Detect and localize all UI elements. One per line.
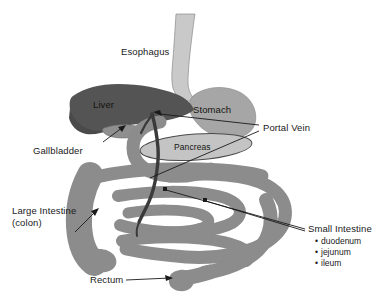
label-pancreas: Pancreas bbox=[174, 142, 211, 154]
label-small-intestine: Small Intestine bbox=[308, 223, 372, 235]
small-intestine-part-ileum: •ileum bbox=[311, 258, 361, 269]
label-large-intestine-line1: Large Intestine bbox=[12, 205, 76, 217]
small-intestine-parts-list: •duodenum •jejunum •ileum bbox=[311, 236, 361, 269]
small-intestine-dot-lower bbox=[203, 198, 207, 202]
label-portal-vein: Portal Vein bbox=[263, 122, 310, 134]
digestive-system-diagram: Esophagus Liver Stomach Pancreas Portal … bbox=[0, 0, 383, 304]
label-esophagus: Esophagus bbox=[121, 46, 169, 58]
small-intestine-dot-upper bbox=[163, 187, 167, 191]
label-liver: Liver bbox=[93, 99, 114, 111]
ascending-colon bbox=[79, 175, 94, 263]
label-rectum: Rectum bbox=[90, 274, 123, 286]
label-large-intestine-line2: (colon) bbox=[12, 217, 42, 229]
small-intestine-part-jejunum: •jejunum bbox=[311, 247, 361, 258]
label-gallbladder: Gallbladder bbox=[33, 145, 83, 157]
small-intestine-part-duodenum: •duodenum bbox=[311, 236, 361, 247]
esophagus-shape bbox=[172, 14, 196, 101]
label-stomach: Stomach bbox=[193, 104, 231, 116]
rectum-leader bbox=[126, 278, 170, 280]
rectum-shape bbox=[169, 270, 194, 291]
